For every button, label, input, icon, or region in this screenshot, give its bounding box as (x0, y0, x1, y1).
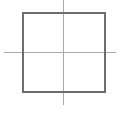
geometric-figure (0, 0, 120, 113)
canvas-background (0, 0, 120, 113)
figure-canvas (0, 0, 120, 113)
